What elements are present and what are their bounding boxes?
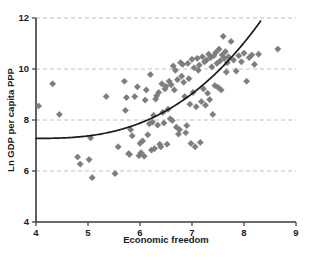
data-point	[75, 154, 81, 160]
x-tick-label-5: 5	[85, 227, 91, 238]
x-tick-label-4: 4	[33, 227, 39, 238]
x-tick-label-8: 8	[241, 227, 246, 238]
data-point	[275, 46, 281, 52]
gridlines	[36, 18, 296, 171]
data-point	[112, 170, 118, 176]
data-point	[121, 78, 127, 84]
data-point	[89, 175, 95, 181]
data-point	[147, 72, 153, 78]
data-point	[115, 144, 121, 150]
data-point	[134, 84, 140, 90]
data-point	[184, 123, 190, 129]
data-point	[143, 87, 149, 93]
y-tick-label-8: 8	[24, 114, 29, 125]
data-point	[103, 93, 109, 99]
chart-canvas: 4681012456789Economic freedomLn GDP per …	[0, 0, 310, 265]
data-point	[189, 56, 195, 62]
data-point	[223, 69, 229, 75]
data-point	[255, 51, 261, 57]
scatter-chart: 4681012456789Economic freedomLn GDP per …	[0, 0, 310, 265]
data-point	[155, 122, 161, 128]
data-point	[228, 38, 234, 44]
data-point	[210, 111, 216, 117]
data-point	[220, 33, 226, 39]
data-points	[36, 33, 281, 180]
data-point	[244, 78, 250, 84]
data-point	[193, 104, 199, 110]
data-point	[164, 141, 170, 147]
data-point	[187, 101, 193, 107]
data-point	[185, 60, 191, 66]
data-point	[194, 55, 200, 61]
data-point	[207, 97, 213, 103]
data-point	[122, 107, 128, 113]
data-point	[132, 93, 138, 99]
y-tick-label-4: 4	[24, 216, 30, 227]
data-point	[56, 111, 62, 117]
x-axis-title: Economic freedom	[123, 234, 209, 245]
trend-curve	[36, 21, 261, 138]
y-tick-label-12: 12	[18, 12, 29, 23]
data-point	[238, 59, 244, 65]
y-axis-ticks: 4681012	[18, 12, 36, 227]
data-point	[123, 94, 129, 100]
data-point	[197, 139, 203, 145]
data-point	[171, 87, 177, 93]
y-tick-label-10: 10	[18, 63, 29, 74]
y-tick-label-6: 6	[24, 165, 29, 176]
y-axis-title: Ln GDP per capita PPP	[5, 67, 16, 171]
data-point	[183, 130, 189, 136]
data-point	[205, 90, 211, 96]
data-point	[86, 156, 92, 162]
x-tick-label-9: 9	[293, 227, 298, 238]
data-point	[50, 81, 56, 87]
data-point	[145, 132, 151, 138]
data-point	[181, 79, 187, 85]
data-point	[77, 161, 83, 167]
data-point	[142, 97, 148, 103]
data-point	[129, 133, 135, 139]
data-point	[186, 76, 192, 82]
data-point	[251, 61, 257, 67]
data-point	[161, 120, 167, 126]
